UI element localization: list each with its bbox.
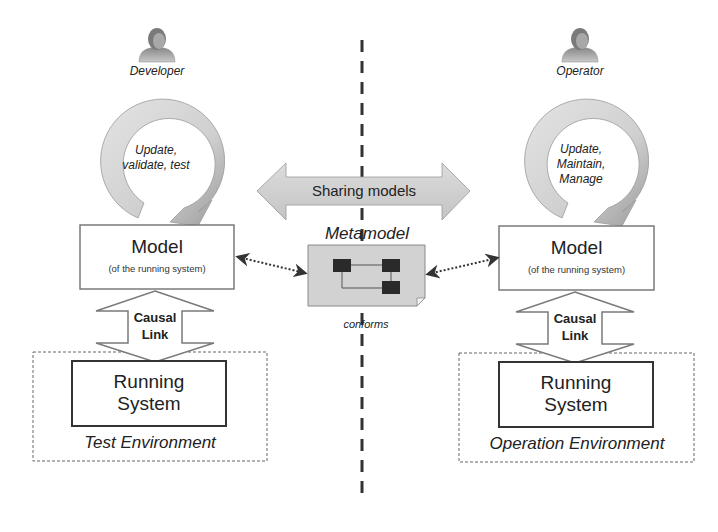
test-environment-label: Test Environment [60,433,240,453]
causal-line: Causal [545,310,605,327]
causal-line: Link [545,327,605,344]
operator-label: Operator [540,64,620,78]
developer-person-icon [139,28,175,62]
operator-person-icon [562,28,598,62]
running-line: Running [499,372,653,394]
operator-causal-link-label: Causal Link [545,310,605,344]
developer-label: Developer [117,64,197,78]
operator-cycle-line: Manage [531,172,631,187]
operator-running-system-label: Running System [499,372,653,416]
metamodel-class-block [333,259,351,272]
developer-model-title: Model [80,236,234,258]
operator-cycle-line: Maintain, [531,157,631,172]
operator-cycle-line: Update, [531,142,631,157]
operator-model-subtitle: (of the running system) [499,264,654,275]
developer-running-system-label: Running System [72,371,226,415]
developer-cycle-line: validate, test [106,158,206,173]
right-conformance-link [428,258,497,274]
developer-model-subtitle: (of the running system) [80,263,234,274]
developer-causal-link-label: Causal Link [125,309,185,343]
developer-cycle-label: Update, validate, test [106,143,206,173]
metamodel-class-block [382,259,400,272]
metamodel-class-block [382,281,400,294]
causal-line: Causal [125,309,185,326]
running-line: System [72,393,226,415]
conforms-label: conforms [336,318,396,330]
operator-cycle-label: Update, Maintain, Manage [531,142,631,187]
operator-model-title: Model [499,237,654,259]
operation-environment-label: Operation Environment [463,434,691,454]
developer-cycle-line: Update, [106,143,206,158]
running-line: System [499,394,653,416]
sharing-models-label: Sharing models [300,182,428,199]
left-conformance-link [238,257,305,273]
metamodel-title: Metamodel [310,224,424,244]
metamodel-box[interactable] [308,245,425,306]
running-line: Running [72,371,226,393]
causal-line: Link [125,326,185,343]
